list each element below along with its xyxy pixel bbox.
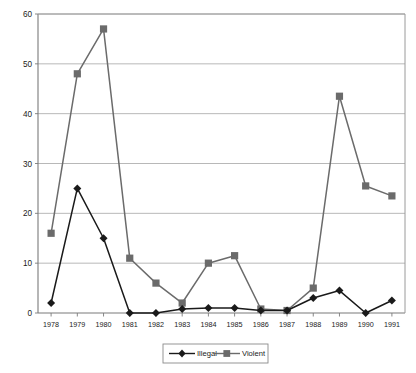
y-tick-label-50: 50 <box>23 60 33 69</box>
legend-marker-square-violent <box>223 350 230 357</box>
data-point-violent-1979 <box>74 70 81 77</box>
chart-legend: Illegal Violent <box>163 344 268 363</box>
data-point-violent-1991 <box>388 192 395 199</box>
chart-container: 0102030405060 19781979198019811982198319… <box>0 0 416 373</box>
x-tick-label-1983: 1983 <box>174 320 190 329</box>
data-point-violent-1985 <box>231 252 238 259</box>
y-tick-label-10: 10 <box>23 259 33 268</box>
data-point-violent-1988 <box>310 284 317 291</box>
data-point-violent-1990 <box>362 182 369 189</box>
x-tick-label-1979: 1979 <box>69 320 85 329</box>
y-tick-label-60: 60 <box>23 10 33 19</box>
data-point-violent-1980 <box>100 25 107 32</box>
line-chart-figure: 0102030405060 19781979198019811982198319… <box>0 0 416 373</box>
data-point-violent-1978 <box>48 230 55 237</box>
x-tick-label-1988: 1988 <box>305 320 321 329</box>
x-tick-label-1987: 1987 <box>279 320 295 329</box>
x-tick-label-1978: 1978 <box>43 320 59 329</box>
y-tick-label-20: 20 <box>23 209 33 218</box>
data-point-violent-1989 <box>336 93 343 100</box>
data-point-violent-1984 <box>205 260 212 267</box>
data-point-violent-1981 <box>126 255 133 262</box>
x-tick-label-1980: 1980 <box>96 320 112 329</box>
x-tick-label-1982: 1982 <box>148 320 164 329</box>
y-tick-label-30: 30 <box>23 160 33 169</box>
y-tick-label-40: 40 <box>23 110 33 119</box>
x-tick-label-1985: 1985 <box>227 320 243 329</box>
y-tick-label-0: 0 <box>27 309 32 318</box>
legend-label-violent: Violent <box>242 349 266 358</box>
x-tick-label-1984: 1984 <box>200 320 216 329</box>
chart-background <box>0 0 416 373</box>
x-tick-label-1991: 1991 <box>384 320 400 329</box>
x-tick-label-1986: 1986 <box>253 320 269 329</box>
x-tick-label-1989: 1989 <box>331 320 347 329</box>
data-point-violent-1982 <box>152 280 159 287</box>
x-tick-label-1990: 1990 <box>358 320 374 329</box>
x-tick-label-1981: 1981 <box>122 320 138 329</box>
